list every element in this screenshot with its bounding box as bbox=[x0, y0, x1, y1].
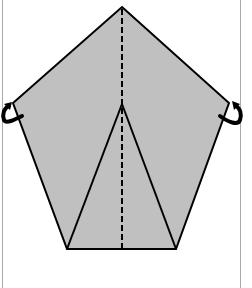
origami-diagram bbox=[0, 0, 252, 288]
